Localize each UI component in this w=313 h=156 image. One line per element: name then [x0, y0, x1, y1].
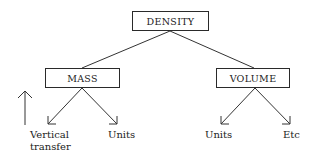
arrow-volume-units	[221, 88, 255, 124]
leaf-vertical-transfer-line2: transfer	[30, 141, 71, 153]
arrow-up-icon	[18, 91, 32, 125]
arrow-mass-vertical-transfer	[48, 88, 82, 124]
connector-density-volume	[170, 31, 254, 68]
leaf-volume-units: Units	[205, 129, 232, 141]
node-volume: VOLUME	[216, 68, 290, 88]
leaf-vertical-transfer: Vertical transfer	[30, 129, 71, 153]
leaf-etc: Etc	[283, 129, 300, 141]
density-hierarchy-diagram: DENSITY MASS VOLUME Vertical transfer Un…	[0, 0, 313, 156]
leaf-vertical-transfer-line1: Vertical	[30, 129, 71, 141]
connector-density-mass	[82, 31, 170, 68]
node-density-label: DENSITY	[147, 16, 195, 27]
leaf-mass-units: Units	[108, 129, 135, 141]
node-volume-label: VOLUME	[230, 73, 277, 84]
node-mass: MASS	[45, 68, 120, 88]
arrow-volume-etc	[255, 88, 290, 124]
arrow-mass-units	[82, 88, 117, 124]
node-mass-label: MASS	[67, 73, 98, 84]
node-density: DENSITY	[132, 11, 209, 31]
